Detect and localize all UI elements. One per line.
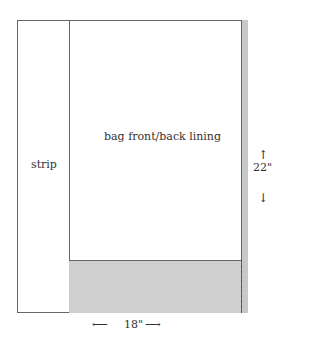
- dashed-fold-line: [241, 260, 242, 313]
- strip-label: strip: [31, 158, 57, 171]
- width-dimension-label: 18": [124, 318, 143, 331]
- arrow-left-icon: ⟵: [92, 318, 108, 331]
- arrow-right-icon: ⟶: [145, 318, 161, 331]
- bottom-shaded-region: [69, 260, 241, 313]
- right-seam-allowance: [241, 20, 248, 313]
- main-panel-label: bag front/back lining: [104, 130, 221, 143]
- arrow-up-icon: ↑: [258, 148, 268, 162]
- height-dimension-label: 22": [253, 161, 272, 174]
- arrow-down-icon: ↓: [258, 191, 268, 205]
